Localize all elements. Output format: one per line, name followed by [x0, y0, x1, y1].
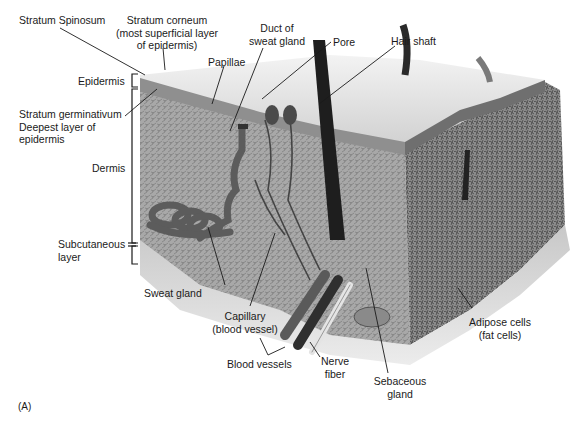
label-stratum-spinosum: Stratum Spinosum: [19, 14, 105, 27]
stratum-corneum-line-1: Stratum corneum: [107, 14, 227, 27]
germinativum-line-3: epidermis: [19, 133, 122, 146]
layer-brackets: [128, 74, 138, 264]
pore-opening: [238, 124, 248, 129]
label-stratum-corneum: Stratum corneum (most superficial layer …: [107, 14, 227, 52]
label-capillary: Capillary (blood vessel): [190, 310, 300, 335]
label-pore: Pore: [333, 36, 355, 49]
label-papillae: Papillae: [208, 56, 245, 69]
subcutaneous-line-2: layer: [58, 251, 125, 264]
adipose-line-2: (fat cells): [455, 329, 545, 342]
label-blood-vessels: Blood vessels: [227, 358, 292, 371]
germinativum-line-1: Stratum germinativum: [19, 108, 122, 121]
subcutaneous-line-1: Subcutaneous: [58, 238, 125, 251]
figure-tag: (A): [18, 401, 31, 412]
adipose-line-1: Adipose cells: [455, 316, 545, 329]
label-adipose-cells: Adipose cells (fat cells): [455, 316, 545, 341]
capillary-line-2: (blood vessel): [190, 323, 300, 336]
stratum-corneum-line-2: (most superficial layer: [107, 27, 227, 40]
label-subcutaneous-layer: Subcutaneous layer: [58, 238, 125, 263]
label-sweat-gland: Sweat gland: [144, 287, 202, 300]
duct-line-2: sweat gland: [242, 35, 312, 48]
germinativum-line-2: Deepest layer of: [19, 121, 122, 134]
sebaceous-line-1: Sebaceous: [368, 375, 432, 388]
label-sebaceous-gland: Sebaceous gland: [368, 375, 432, 400]
nerve-line-1: Nerve: [318, 355, 352, 368]
label-nerve-fiber: Nerve fiber: [318, 355, 352, 380]
capillary-line-1: Capillary: [190, 310, 300, 323]
duct-line-1: Duct of: [242, 22, 312, 35]
label-hair-shaft: Hair shaft: [391, 35, 436, 48]
nerve-line-2: fiber: [318, 368, 352, 381]
label-duct-of-sweat-gland: Duct of sweat gland: [242, 22, 312, 47]
stratum-corneum-line-3: of epidermis): [107, 39, 227, 52]
sebaceous-line-2: gland: [368, 388, 432, 401]
label-dermis: Dermis: [92, 162, 125, 175]
label-stratum-germinativum: Stratum germinativum Deepest layer of ep…: [19, 108, 122, 146]
label-epidermis: Epidermis: [78, 75, 125, 88]
